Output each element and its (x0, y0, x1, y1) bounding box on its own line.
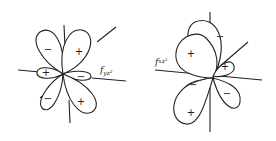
orbital-fxz2: − + + − − + fxz² (154, 12, 262, 132)
x-axis-top (97, 27, 116, 42)
orbital-fyz2: − + + − − + fyz² (18, 25, 126, 123)
sign-label: + (42, 67, 50, 78)
sign-label: + (221, 61, 229, 72)
lobe-lower-left (41, 74, 63, 110)
orbital-label-fyz2: fyz² (99, 65, 113, 77)
sign-label: + (187, 48, 195, 59)
orbital-diagram: − + + − − + fyz² − + + − − + fxz² (0, 0, 276, 141)
sign-label: − (189, 79, 197, 90)
orbital-label-fxz2: fxz² (154, 57, 168, 67)
sign-label: − (223, 88, 231, 99)
sign-label: − (216, 31, 224, 42)
sign-label: + (75, 46, 83, 57)
z-axis-bottom (69, 100, 70, 123)
sign-label: + (77, 96, 85, 107)
sign-label: + (187, 107, 195, 118)
sign-label: − (44, 93, 52, 104)
sign-label: − (77, 71, 85, 82)
y-axis-right (92, 78, 126, 81)
sign-label: − (44, 44, 52, 55)
